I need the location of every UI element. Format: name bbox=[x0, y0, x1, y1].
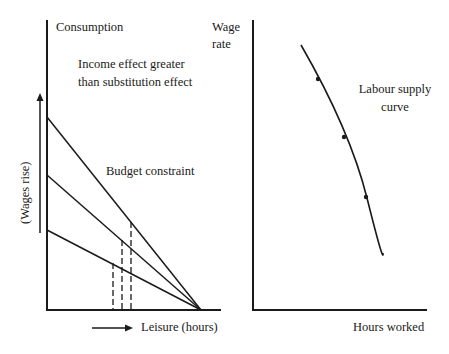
wage-axis-label-line2: rate bbox=[212, 37, 231, 52]
wages-rise-arrow-icon bbox=[37, 93, 44, 233]
supply-point-3 bbox=[364, 195, 368, 199]
leisure-arrow-icon bbox=[92, 325, 133, 332]
annotation-line-2: than substitution effect bbox=[78, 75, 192, 90]
labour-supply-label-line1: Labour supply bbox=[340, 82, 449, 97]
supply-point-2 bbox=[342, 135, 346, 139]
hours-worked-axis-label: Hours worked bbox=[353, 320, 424, 335]
annotation-line-1: Income effect greater bbox=[78, 57, 185, 72]
wage-axis-label-line1: Wage bbox=[212, 20, 240, 35]
consumption-axis-label: Consumption bbox=[56, 20, 123, 35]
supply-point-1 bbox=[316, 77, 320, 81]
labour-supply-curve bbox=[301, 45, 383, 255]
wages-rise-label: (Wages rise) bbox=[18, 161, 33, 224]
leisure-axis-label: Leisure (hours) bbox=[141, 320, 218, 335]
diagram-canvas bbox=[0, 0, 449, 354]
budget-constraint-label: Budget constraint bbox=[106, 164, 195, 179]
budget-line-high bbox=[47, 117, 201, 310]
labour-supply-label-line2: curve bbox=[340, 100, 449, 115]
